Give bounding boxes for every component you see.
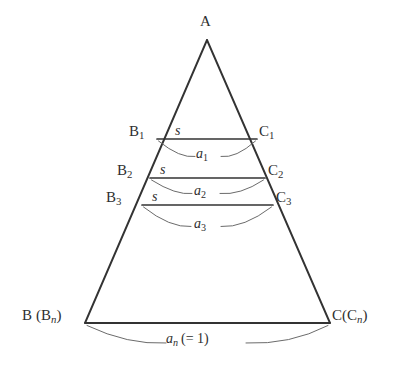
vertex-label-a: A	[200, 14, 211, 29]
arc-label-a3-letter: a	[194, 216, 201, 231]
arc-an-right	[246, 326, 328, 344]
vertex-label-b3-letter: B	[106, 189, 116, 205]
arc-label-a2-subscript: 2	[201, 189, 206, 200]
arc-an-left	[87, 326, 166, 344]
segment-label-s-3: s	[152, 190, 157, 204]
vertex-label-b3-subscript: 3	[116, 195, 121, 207]
vertex-label-b-base: B(Bn)	[22, 308, 61, 325]
vertex-label-b-base-letter: B	[22, 307, 32, 323]
vertex-label-b1: B1	[129, 124, 144, 141]
arc-label-an: an(= 1)	[166, 332, 209, 348]
arc-a2-right	[220, 180, 264, 194]
arc-label-a1-subscript: 1	[203, 152, 208, 163]
arc-label-an-letter: a	[166, 331, 173, 346]
vertex-label-b-base-paren-close: )	[56, 307, 61, 323]
vertex-label-c2-subscript: 2	[278, 168, 283, 180]
vertex-label-b3: B3	[106, 190, 121, 207]
vertex-label-c1: C1	[259, 124, 274, 141]
arc-label-a3: a3	[194, 217, 206, 233]
segment-label-s-2: s	[160, 163, 165, 177]
vertex-label-c-base-paren-open: (C	[342, 307, 357, 323]
vertex-label-c3-subscript: 3	[286, 195, 291, 207]
arc-label-an-subscript: n	[173, 337, 178, 348]
arc-label-a3-subscript: 3	[201, 222, 206, 233]
segment-label-s-1: s	[175, 124, 180, 138]
vertex-label-b2: B2	[117, 163, 132, 180]
triangle-left-leg	[85, 40, 207, 323]
vertex-label-b-base-paren-open: (B	[36, 307, 51, 323]
arc-label-a1: a1	[196, 147, 208, 163]
triangle-outline	[85, 40, 330, 323]
triangle-right-leg	[207, 40, 330, 323]
arc-a1-left	[159, 141, 196, 157]
vertex-label-c2-letter: C	[268, 162, 278, 178]
vertex-label-b2-letter: B	[117, 162, 127, 178]
arc-label-a1-letter: a	[196, 146, 203, 161]
arc-a2-left	[152, 180, 193, 194]
arc-a3-left	[144, 207, 192, 227]
vertex-label-c-base-paren-close: )	[362, 307, 367, 323]
vertex-label-c2: C2	[268, 163, 283, 180]
vertex-label-b2-subscript: 2	[127, 168, 132, 180]
vertex-label-c1-letter: C	[259, 123, 269, 139]
vertex-label-c1-subscript: 1	[269, 129, 274, 141]
arc-a1-right	[221, 141, 256, 157]
vertex-label-b1-subscript: 1	[139, 129, 144, 141]
arc-label-a2-letter: a	[194, 183, 201, 198]
arc-a3-right	[221, 207, 272, 227]
vertex-label-c-base-letter: C	[332, 307, 342, 323]
arc-label-an-value: (= 1)	[181, 331, 209, 346]
vertex-label-c3-letter: C	[276, 189, 286, 205]
vertex-label-c-base: C(Cn)	[332, 308, 367, 325]
vertex-label-c3: C3	[276, 190, 291, 207]
arc-label-a2: a2	[194, 184, 206, 200]
diagram-canvas: A B1 C1 B2 C2 B3 C3 B(Bn) C(Cn) s s s a1…	[0, 0, 414, 379]
vertex-label-b1-letter: B	[129, 123, 139, 139]
